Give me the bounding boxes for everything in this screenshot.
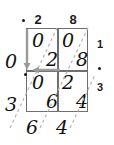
cell-r1c1-upper-digit: 2 [60, 73, 76, 92]
right-operand-digit-1: 3 [93, 82, 107, 93]
answer-decimal-point [24, 73, 27, 76]
answer-digit-1: 3 [3, 95, 19, 114]
cell-r0c1-upper-digit: 0 [60, 31, 76, 50]
answer-digit-3: 4 [54, 118, 70, 137]
lattice-multiplication-diagram: 2 8 1 3 0 2 0 8 0 6 2 4 0 3 6 4 [0, 0, 114, 145]
cell-r0c1-lower-digit: 8 [74, 50, 90, 69]
top-operand-digit-0: 2 [31, 13, 45, 26]
cell-r0c0-upper-digit: 0 [30, 31, 46, 50]
cell-r0c0-lower-digit: 2 [44, 50, 60, 69]
answer-digit-0: 0 [3, 52, 19, 71]
answer-digit-2: 6 [24, 118, 40, 137]
top-operand-digit-1: 8 [66, 13, 80, 26]
cell-r1c0-upper-digit: 0 [30, 73, 46, 92]
right-operand-digit-0: 1 [93, 39, 107, 50]
cell-r1c0-lower-digit: 6 [44, 92, 60, 111]
cell-r1c1-lower-digit: 4 [74, 92, 90, 111]
top-operand-decimal-point [22, 19, 25, 22]
right-operand-decimal-point [98, 67, 101, 70]
